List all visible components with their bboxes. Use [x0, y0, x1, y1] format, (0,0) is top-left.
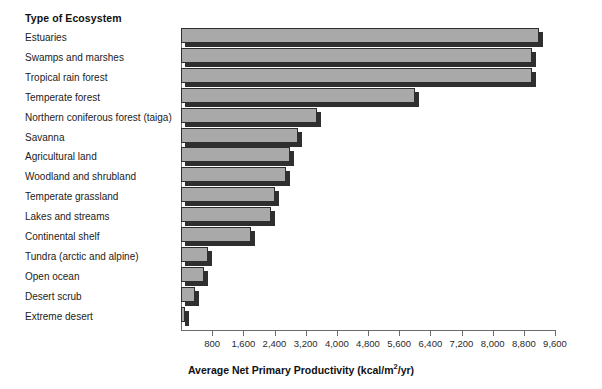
bar-face: [181, 147, 290, 162]
x-axis-tick-label: 8,800: [512, 338, 536, 349]
bar: [181, 187, 279, 202]
x-axis-tick-label: 2,400: [263, 338, 287, 349]
x-axis-title: Average Net Primary Productivity (kcal/m…: [0, 362, 602, 376]
bar: [181, 267, 208, 282]
bar-shadow-bottom: [185, 202, 279, 206]
bar-shadow-bottom: [185, 322, 189, 326]
bar-shadow-bottom: [185, 282, 208, 286]
category-label: Temperate grassland: [25, 191, 118, 202]
bar-face: [181, 48, 532, 63]
bar-shadow-bottom: [185, 143, 302, 147]
x-axis-tick-label: 3,200: [294, 338, 318, 349]
bar-shadow-bottom: [185, 63, 536, 67]
x-axis-tick: [462, 331, 463, 336]
category-label: Continental shelf: [25, 231, 100, 242]
bar-shadow-bottom: [185, 262, 212, 266]
bar: [181, 48, 536, 63]
category-label: Tundra (arctic and alpine): [25, 251, 139, 262]
x-axis-tick-label: 9,600: [543, 338, 567, 349]
bar-face: [181, 307, 185, 322]
bar-face: [181, 207, 271, 222]
x-axis-title-main: Average Net Primary Productivity (kcal/m: [188, 364, 394, 376]
bar-face: [181, 287, 195, 302]
x-axis-tick: [555, 331, 556, 336]
bar-face: [181, 68, 532, 83]
bar-face: [181, 267, 204, 282]
bar-shadow-bottom: [185, 83, 536, 87]
x-axis-tick: [368, 331, 369, 336]
bar-shadow-bottom: [185, 43, 543, 47]
category-column-title: Type of Ecosystem: [25, 12, 122, 24]
x-axis-tick: [430, 331, 431, 336]
x-axis-tick: [306, 331, 307, 336]
bar-face: [181, 227, 251, 242]
category-label: Swamps and marshes: [25, 52, 124, 63]
bar: [181, 207, 275, 222]
plot-area: [181, 28, 555, 330]
x-axis-tick: [212, 331, 213, 336]
x-axis-tick-label: 5,600: [387, 338, 411, 349]
category-label: Northern coniferous forest (taiga): [25, 112, 172, 123]
bar: [181, 108, 321, 123]
category-label: Tropical rain forest: [25, 72, 107, 83]
bar-face: [181, 88, 415, 103]
bar-face: [181, 28, 539, 43]
x-axis-tick-label: 1,600: [231, 338, 255, 349]
x-axis-tick: [243, 331, 244, 336]
bar-chart: Type of Ecosystem EstuariesSwamps and ma…: [0, 0, 602, 389]
x-axis-tick: [337, 331, 338, 336]
x-axis-tick-label: 7,200: [450, 338, 474, 349]
category-label: Estuaries: [25, 32, 67, 43]
bar: [181, 128, 302, 143]
category-label: Savanna: [25, 132, 64, 143]
bar-face: [181, 187, 275, 202]
bar: [181, 28, 543, 43]
category-label: Agricultural land: [25, 151, 97, 162]
x-axis-title-tail: /yr): [398, 364, 414, 376]
x-axis-tick-label: 8,000: [481, 338, 505, 349]
bar: [181, 167, 290, 182]
bar: [181, 307, 189, 322]
x-axis-tick: [399, 331, 400, 336]
bar-shadow-bottom: [185, 123, 321, 127]
category-label: Extreme desert: [25, 311, 93, 322]
bar-shadow-bottom: [185, 222, 275, 226]
category-label: Woodland and shrubland: [25, 171, 136, 182]
bar-face: [181, 108, 317, 123]
bar: [181, 227, 255, 242]
bar-shadow-bottom: [185, 302, 199, 306]
x-axis-tick: [275, 331, 276, 336]
x-axis-tick: [524, 331, 525, 336]
x-axis-tick-label: 4,800: [356, 338, 380, 349]
x-axis-tick-label: 4,000: [325, 338, 349, 349]
bar-shadow-bottom: [185, 182, 290, 186]
bar: [181, 247, 212, 262]
category-label: Lakes and streams: [25, 211, 110, 222]
category-label: Temperate forest: [25, 92, 100, 103]
bar-face: [181, 247, 208, 262]
bar: [181, 287, 199, 302]
bar-shadow-bottom: [185, 162, 294, 166]
x-axis-tick: [493, 331, 494, 336]
category-label: Desert scrub: [25, 291, 82, 302]
x-axis-tick-label: 800: [204, 338, 220, 349]
bar-shadow-bottom: [185, 103, 419, 107]
bar: [181, 88, 419, 103]
x-axis-tick-label: 6,400: [418, 338, 442, 349]
bar: [181, 147, 294, 162]
bar: [181, 68, 536, 83]
bar-shadow-bottom: [185, 242, 255, 246]
bar-face: [181, 128, 298, 143]
bar-face: [181, 167, 286, 182]
category-label: Open ocean: [25, 271, 80, 282]
